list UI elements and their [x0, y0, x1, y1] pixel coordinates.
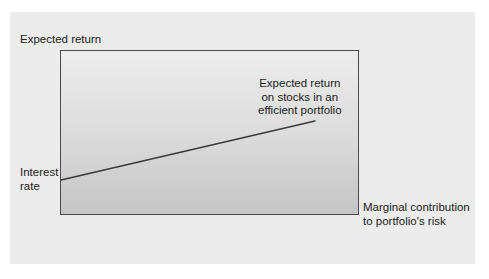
interest-rate-label-line-2: rate [20, 180, 58, 194]
plot-area [60, 50, 359, 215]
efficient-portfolio-label-line-3: efficient portfolio [258, 104, 342, 118]
x-axis-label-line-1: Marginal contribution [363, 201, 470, 215]
x-axis-label-line-2: to portfolio's risk [363, 215, 470, 229]
efficient-portfolio-label: Expected return on stocks in an efficien… [258, 77, 342, 118]
interest-rate-label-line-1: Interest [20, 166, 58, 180]
x-axis-label: Marginal contribution to portfolio's ris… [363, 201, 470, 228]
y-axis-label: Expected return [20, 33, 101, 47]
efficient-portfolio-label-line-2: on stocks in an [258, 91, 342, 105]
interest-rate-label: Interest rate [20, 166, 58, 193]
efficient-portfolio-label-line-1: Expected return [258, 77, 342, 91]
